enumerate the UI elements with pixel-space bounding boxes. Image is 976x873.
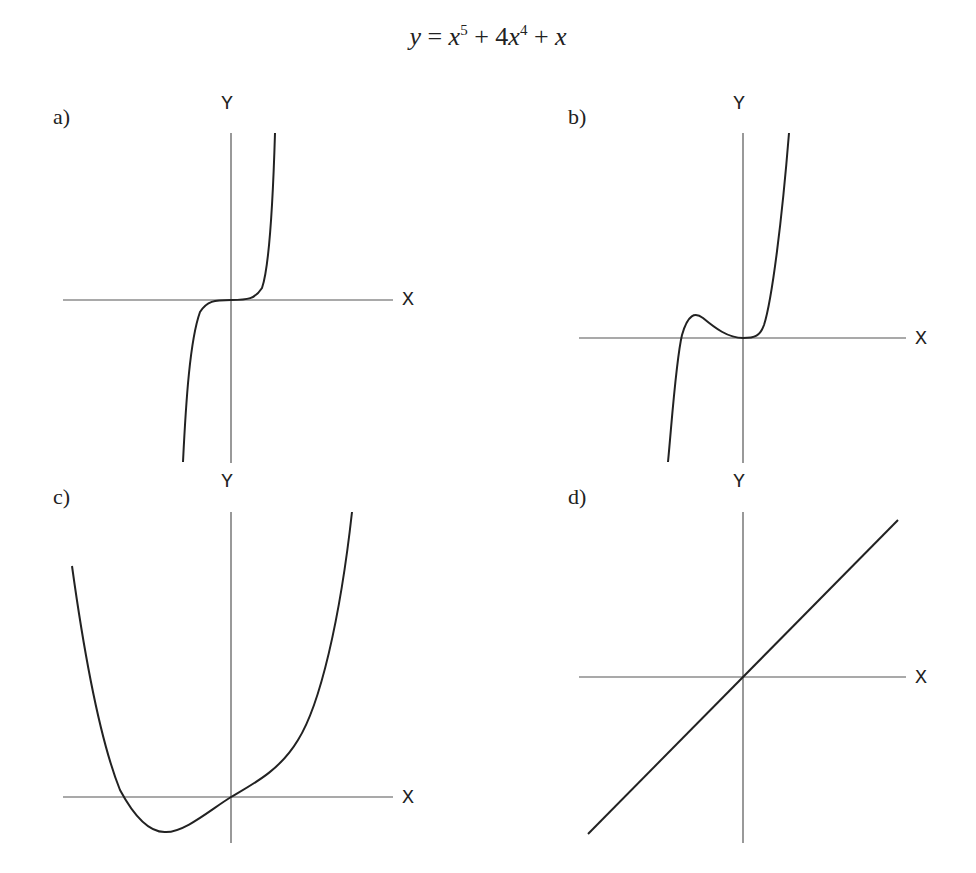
axes (63, 133, 906, 843)
panel-d-y-label: Y (733, 470, 745, 493)
panel-d-x-label: X (915, 666, 927, 689)
curve-b (668, 133, 789, 462)
panel-a-x-label: X (402, 288, 414, 311)
panel-b-x-label: X (915, 327, 927, 350)
panel-c-y-label: Y (221, 470, 233, 493)
panel-c-label: c) (53, 484, 70, 510)
curve-c (72, 512, 352, 832)
panel-b-label: b) (568, 104, 586, 130)
curve-a (183, 133, 275, 462)
panel-c-x-label: X (402, 786, 414, 809)
panel-b-y-label: Y (733, 92, 745, 115)
panel-a-y-label: Y (221, 92, 233, 115)
panel-a-label: a) (53, 104, 70, 130)
panel-d-label: d) (568, 484, 586, 510)
graphs-canvas (0, 0, 976, 873)
